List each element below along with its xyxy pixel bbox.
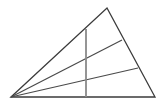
figure-background bbox=[0, 0, 166, 107]
triangle-figure bbox=[0, 0, 166, 107]
